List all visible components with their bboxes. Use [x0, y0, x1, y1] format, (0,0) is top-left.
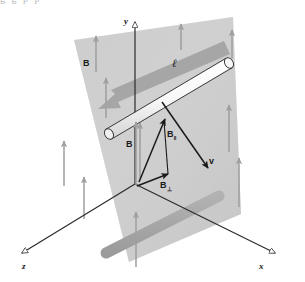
label-y-axis: y [124, 17, 128, 26]
label-velocity: v [209, 157, 214, 166]
label-field-parallel: B‖ [167, 130, 177, 141]
label-field-perpendicular: B⊥ [160, 181, 172, 192]
label-x-axis: x [259, 262, 264, 271]
label-field-perpendicular-sub: ⊥ [167, 186, 172, 192]
label-z-axis: z [22, 262, 26, 271]
label-field-parallel-sub: ‖ [174, 135, 177, 141]
label-field-outer: B [83, 59, 90, 68]
label-length: ℓ [172, 58, 177, 69]
label-field-vector: B [126, 140, 133, 149]
figure-canvas [0, 0, 305, 282]
